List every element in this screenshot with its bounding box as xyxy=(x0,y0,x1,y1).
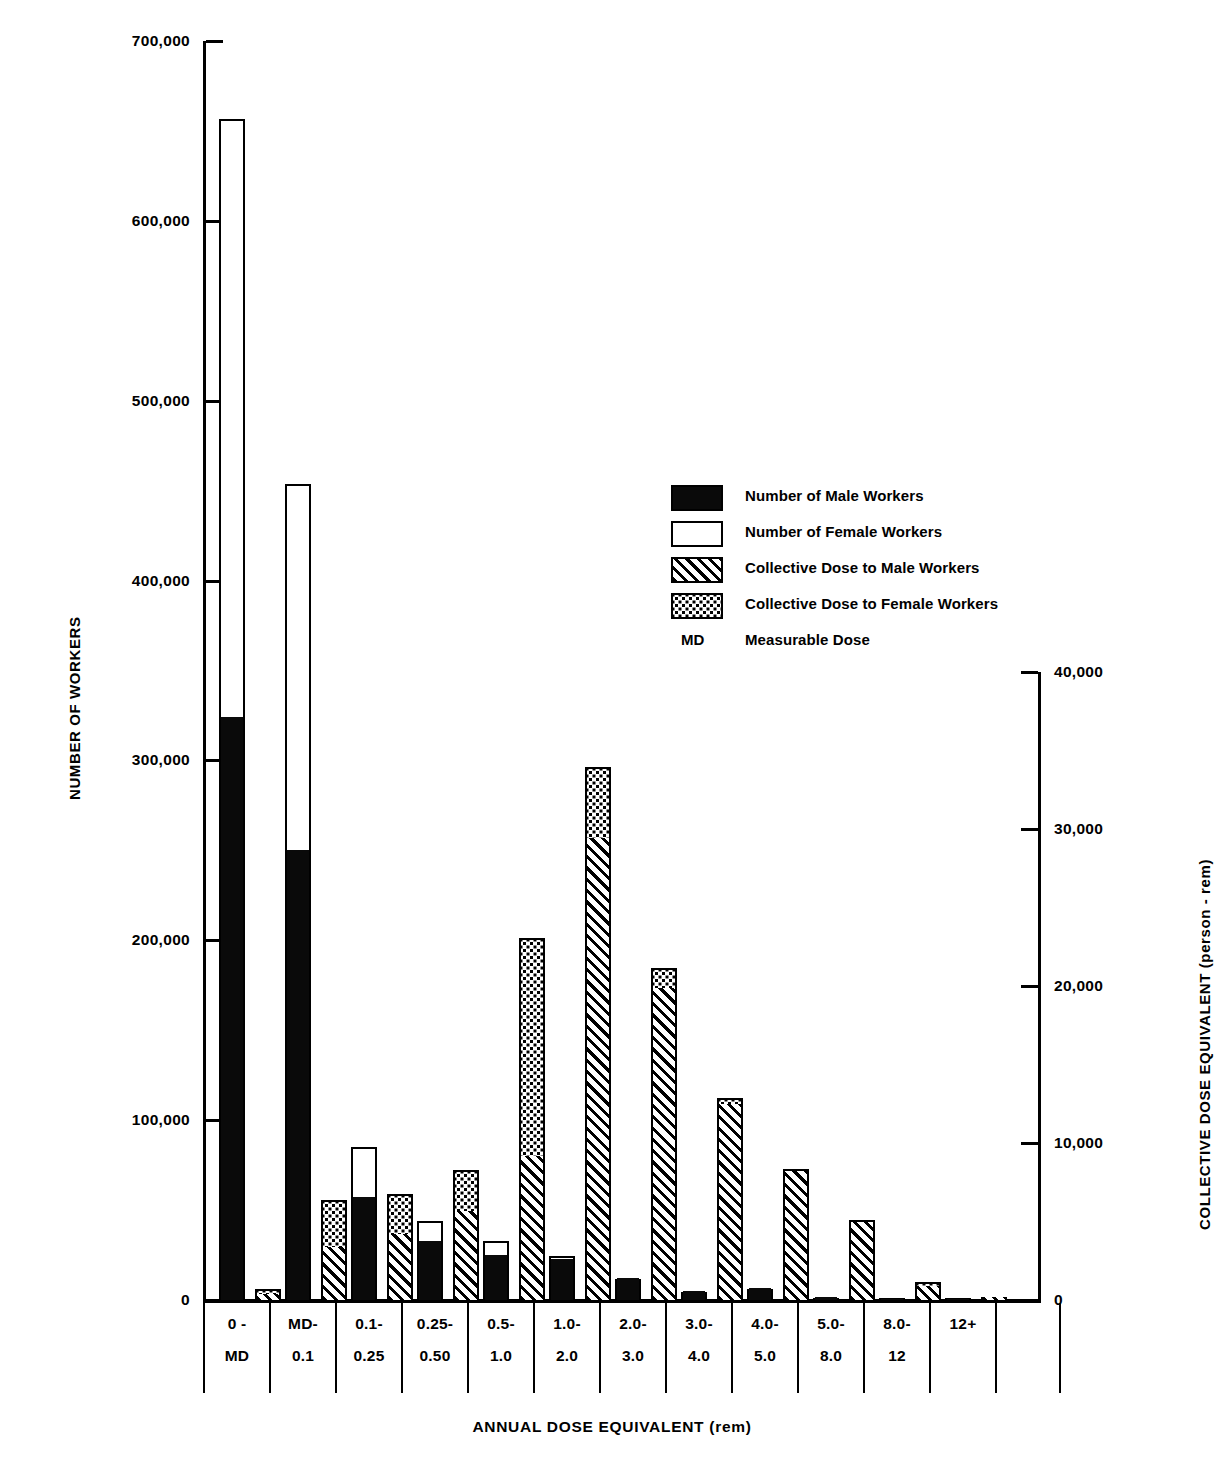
collective-dose-bar xyxy=(981,1297,1007,1302)
left-axis-tick-label: 100,000 xyxy=(60,1111,190,1129)
legend-label-male-workers: Number of Male Workers xyxy=(745,487,924,504)
male-dose-segment xyxy=(389,1234,411,1300)
bar-group xyxy=(417,41,483,1302)
male-dose-segment xyxy=(653,988,675,1300)
collective-dose-bar xyxy=(915,1282,941,1302)
male-dose-segment xyxy=(983,1297,1005,1300)
collective-dose-bar xyxy=(585,767,611,1302)
legend-label-male-dose: Collective Dose to Male Workers xyxy=(745,559,980,576)
category-label-line2: 12 xyxy=(865,1347,929,1365)
male-workers-segment xyxy=(221,717,243,1300)
bar-group xyxy=(549,41,615,1302)
left-axis-tick-label: 0 xyxy=(60,1291,190,1309)
legend-label-female-dose: Collective Dose to Female Workers xyxy=(745,595,998,612)
category-label-line2: 0.50 xyxy=(403,1347,467,1365)
collective-dose-bar xyxy=(717,1098,743,1302)
category-cell: 8.0-12 xyxy=(863,1303,929,1393)
right-axis-tick-label: 20,000 xyxy=(1054,977,1103,995)
x-axis-title: ANNUAL DOSE EQUIVALENT (rem) xyxy=(0,1418,1224,1436)
right-axis-title: COLLECTIVE DOSE EQUIVALENT (person - rem… xyxy=(1196,859,1213,1230)
category-label-line1: 1.0- xyxy=(535,1315,599,1333)
category-cell: 3.0-4.0 xyxy=(665,1303,731,1393)
legend-abbrev-text: Measurable Dose xyxy=(745,631,870,648)
bar-group xyxy=(681,41,747,1302)
category-label-line2: 2.0 xyxy=(535,1347,599,1365)
female-workers-segment xyxy=(353,1149,375,1197)
collective-dose-bar xyxy=(651,968,677,1302)
category-cell: 0.5-1.0 xyxy=(467,1303,533,1393)
collective-dose-bar xyxy=(849,1220,875,1302)
legend-abbrev-key: MD xyxy=(681,631,704,648)
category-label-line2: 3.0 xyxy=(601,1347,665,1365)
workers-bar xyxy=(615,1279,641,1302)
bar-group xyxy=(879,41,945,1302)
legend-item: Number of Female Workers xyxy=(671,519,1071,555)
male-workers-segment xyxy=(551,1259,573,1300)
category-cell: 0.25-0.50 xyxy=(401,1303,467,1393)
legend-item: Collective Dose to Female Workers xyxy=(671,591,1071,627)
male-workers-segment xyxy=(815,1297,837,1300)
legend-swatch-female-dose xyxy=(671,593,723,619)
male-workers-segment xyxy=(287,850,309,1300)
category-label-line1: 12+ xyxy=(931,1315,995,1333)
category-label-line1: 2.0- xyxy=(601,1315,665,1333)
female-dose-segment xyxy=(455,1172,477,1210)
category-label-line1: 0.5- xyxy=(469,1315,533,1333)
legend-label-female-workers: Number of Female Workers xyxy=(745,523,942,540)
category-label-line1: 0.25- xyxy=(403,1315,467,1333)
collective-dose-bar xyxy=(783,1169,809,1302)
category-label-line1: 0.1- xyxy=(337,1315,401,1333)
male-workers-segment xyxy=(419,1241,441,1300)
category-label-line2: 1.0 xyxy=(469,1347,533,1365)
collective-dose-bar xyxy=(255,1289,281,1302)
category-label-line1: 8.0- xyxy=(865,1315,929,1333)
bar-group xyxy=(945,41,1011,1302)
male-workers-segment xyxy=(947,1299,969,1300)
workers-bar xyxy=(417,1221,443,1302)
category-label-line2: 8.0 xyxy=(799,1347,863,1365)
category-cell: 0.1-0.25 xyxy=(335,1303,401,1393)
left-axis-tick-label: 400,000 xyxy=(60,572,190,590)
category-label-line2: 4.0 xyxy=(667,1347,731,1365)
male-dose-segment xyxy=(785,1171,807,1300)
bar-group xyxy=(813,41,879,1302)
male-workers-segment xyxy=(683,1291,705,1300)
chart-canvas: 0100,000200,000300,000400,000500,000600,… xyxy=(0,0,1224,1459)
female-dose-segment xyxy=(323,1202,345,1247)
category-label-line1: 4.0- xyxy=(733,1315,797,1333)
bar-group xyxy=(351,41,417,1302)
male-dose-segment xyxy=(917,1286,939,1300)
workers-bar xyxy=(945,1298,971,1302)
category-label-line1: 3.0- xyxy=(667,1315,731,1333)
legend-swatch-male-dose xyxy=(671,557,723,583)
male-dose-segment xyxy=(521,1156,543,1300)
legend-abbreviation-row: MD Measurable Dose xyxy=(671,627,1071,663)
workers-bar xyxy=(747,1289,773,1302)
legend-item: Collective Dose to Male Workers xyxy=(671,555,1071,591)
workers-bar xyxy=(285,484,311,1302)
male-dose-segment xyxy=(587,838,609,1300)
workers-bar xyxy=(813,1298,839,1302)
category-axis-boxes: 0 -MDMD-0.10.1-0.250.25-0.500.5-1.01.0-2… xyxy=(203,1303,1061,1393)
female-dose-segment xyxy=(521,940,543,1156)
bars-plot-area xyxy=(203,41,1041,1302)
category-label-line1: 0 - xyxy=(205,1315,269,1333)
female-workers-segment xyxy=(419,1223,441,1241)
category-cell: 4.0-5.0 xyxy=(731,1303,797,1393)
female-workers-segment xyxy=(287,486,309,851)
category-label-line2: 0.25 xyxy=(337,1347,401,1365)
male-dose-segment xyxy=(323,1247,345,1300)
category-label-line1: MD- xyxy=(271,1315,335,1333)
male-dose-segment xyxy=(455,1211,477,1300)
right-axis-tick-label: 40,000 xyxy=(1054,663,1103,681)
male-dose-segment xyxy=(851,1222,873,1301)
category-cell: 0 -MD xyxy=(203,1303,269,1393)
category-cell: 5.0-8.0 xyxy=(797,1303,863,1393)
male-workers-segment xyxy=(881,1299,903,1300)
collective-dose-bar xyxy=(453,1170,479,1302)
legend-item: Number of Male Workers xyxy=(671,483,1071,519)
female-dose-segment xyxy=(389,1196,411,1234)
bar-group xyxy=(615,41,681,1302)
workers-bar xyxy=(681,1292,707,1302)
legend-swatch-female-workers xyxy=(671,521,723,547)
